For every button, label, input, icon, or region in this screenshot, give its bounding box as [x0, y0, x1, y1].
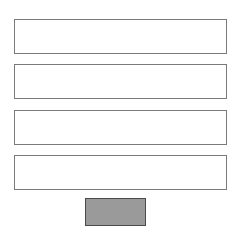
submit-button[interactable] [85, 198, 146, 226]
text-field-2[interactable] [14, 64, 227, 99]
text-field-3[interactable] [14, 110, 227, 145]
text-field-1[interactable] [14, 19, 227, 54]
text-field-4[interactable] [14, 155, 227, 190]
